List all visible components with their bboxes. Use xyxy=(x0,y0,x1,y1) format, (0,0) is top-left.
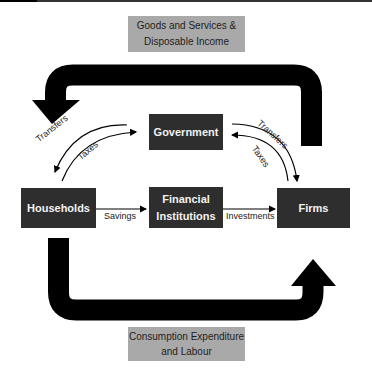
government-label: Government xyxy=(154,124,219,141)
taxes-from-households-arrow xyxy=(62,132,136,181)
top-flow-label: Goods and Services & Disposable Income xyxy=(128,16,245,52)
bottom-flow-label-line-1: Consumption Expenditure xyxy=(129,329,244,344)
bottom-flow-label-line-2: and Labour xyxy=(161,344,212,359)
financial-label-line-2: Institutions xyxy=(156,208,215,225)
savings-label: Savings xyxy=(104,211,136,221)
government-node: Government xyxy=(149,114,223,150)
financial-institutions-node: Financial Institutions xyxy=(149,187,223,228)
bottom-flow-label: Consumption Expenditure and Labour xyxy=(128,327,245,361)
investments-label: Investments xyxy=(226,211,275,221)
top-flow-label-line-2: Disposable Income xyxy=(144,34,229,50)
firms-label: Firms xyxy=(299,200,329,217)
bottom-flow-arrowhead xyxy=(291,259,336,286)
top-flow-label-line-1: Goods and Services & xyxy=(137,18,237,34)
households-node: Households xyxy=(21,188,96,228)
firms-node: Firms xyxy=(277,188,350,228)
bottom-flow-arrow xyxy=(59,238,314,310)
households-label: Households xyxy=(27,200,90,217)
financial-label-line-1: Financial xyxy=(162,191,210,208)
